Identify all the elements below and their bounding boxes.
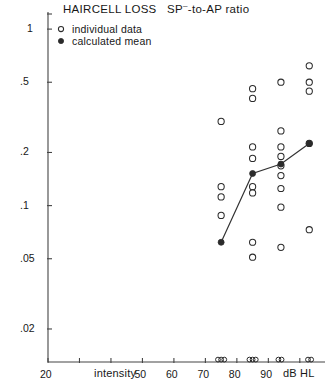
legend-label-individual-data: individual data: [72, 23, 142, 35]
mean-data-marker: [306, 140, 312, 146]
individual-data-marker: [306, 79, 312, 85]
haircell-loss-scatter-chart: [0, 0, 332, 391]
x-tick-label-80: 80: [229, 368, 241, 380]
mean-data-marker: [250, 171, 256, 177]
individual-data-marker: [278, 185, 284, 191]
axis-data-marker: [222, 357, 227, 362]
x-axis-unit-label: dB HL: [283, 367, 315, 379]
individual-data-marker: [250, 155, 256, 161]
individual-data-marker: [278, 128, 284, 134]
mean-data-marker: [218, 239, 224, 245]
y-tick-label-.2: .2: [20, 145, 29, 157]
data-points: [216, 63, 314, 362]
individual-data-marker: [250, 239, 256, 245]
legend-marker-open-circle: [58, 26, 63, 31]
x-tick-label-50: 50: [134, 368, 146, 380]
x-tick-label-90: 90: [260, 368, 272, 380]
legend-marker-filled-circle: [58, 38, 63, 43]
individual-data-marker: [250, 144, 256, 150]
individual-data-marker: [306, 227, 312, 233]
axis-data-marker: [309, 357, 314, 362]
individual-data-marker: [250, 86, 256, 92]
y-tick-label-.1: .1: [20, 199, 29, 211]
y-tick-label-.5: .5: [20, 75, 29, 87]
y-tick-label-.05: .05: [20, 252, 35, 264]
legend-label-calculated-mean: calculated mean: [72, 35, 151, 47]
individual-data-marker: [278, 144, 284, 150]
mean-data-marker: [278, 161, 284, 167]
y-tick-label-1: 1: [27, 22, 33, 34]
axis-data-marker: [253, 357, 258, 362]
axes: [47, 12, 325, 363]
legend-markers: [58, 26, 63, 43]
individual-data-marker: [218, 194, 224, 200]
individual-data-marker: [278, 204, 284, 210]
x-tick-label-70: 70: [197, 368, 209, 380]
individual-data-marker: [218, 118, 224, 124]
x-tick-label-20: 20: [40, 368, 52, 380]
individual-data-marker: [278, 244, 284, 250]
individual-data-marker: [278, 79, 284, 85]
x-axis-label: intensity: [94, 367, 136, 379]
individual-data-marker: [278, 172, 284, 178]
individual-data-marker: [306, 63, 312, 69]
x-tick-label-60: 60: [166, 368, 178, 380]
individual-data-marker: [250, 254, 256, 260]
individual-data-marker: [218, 184, 224, 190]
axis-data-marker: [279, 357, 284, 362]
individual-data-marker: [250, 184, 256, 190]
chart-title-rest: -to-AP ratio: [188, 3, 250, 15]
chart-title-main: HAIRCELL LOSS SP: [63, 3, 183, 15]
individual-data-marker: [278, 153, 284, 159]
y-tick-label-.02: .02: [20, 322, 35, 334]
individual-data-marker: [218, 212, 224, 218]
individual-data-marker: [306, 88, 312, 94]
individual-data-marker: [250, 95, 256, 101]
mean-trend-line: [221, 143, 309, 242]
chart-title: HAIRCELL LOSS SP–-to-AP ratio: [63, 3, 249, 15]
individual-data-marker: [250, 190, 256, 196]
